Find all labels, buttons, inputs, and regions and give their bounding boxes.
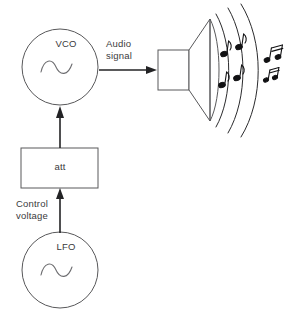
audio-signal-arrow [99, 66, 157, 74]
lfo-label: LFO [46, 241, 86, 253]
music-note-group [218, 34, 283, 89]
att-label: att [40, 161, 80, 173]
vco-label: VCO [46, 38, 86, 50]
diagram-canvas: VCO att LFO Audio signal Control voltage [0, 0, 294, 319]
music-note-icon [220, 41, 231, 58]
beamed-music-note-icon [263, 45, 282, 63]
audio-signal-label: Audio signal [106, 38, 158, 61]
music-note-icon [218, 72, 229, 89]
att-to-vco-arrow [56, 106, 64, 148]
speaker-icon[interactable] [158, 19, 219, 121]
beamed-music-note-icon [263, 68, 279, 83]
control-voltage-label: Control voltage [16, 198, 68, 221]
sound-wave-arcs [216, 4, 258, 137]
